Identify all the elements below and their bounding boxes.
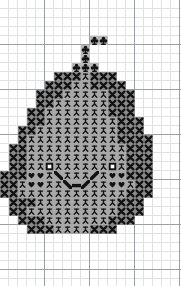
stitch-cell-figure [72,144,81,153]
stitch-cell-figure [81,81,90,90]
stitch-cell-cross [108,72,117,81]
stitch-cell-figure [63,198,72,207]
stitch-cell-cross [27,198,36,207]
stitch-cell-cross [117,108,126,117]
stitch-cell-figure [63,117,72,126]
stitch-cell-figure [90,198,99,207]
stitch-cell-layer [0,0,181,286]
stitch-cell-cross [117,207,126,216]
stitch-cell-figure [45,108,54,117]
stitch-cell-club [81,63,90,72]
stitch-cell-figure [54,108,63,117]
stitch-cell-cross [108,108,117,117]
stitch-cell-figure [99,90,108,99]
stitch-cell-cross [63,72,72,81]
stitch-cell-figure [63,171,72,180]
stitch-cell-figure [63,126,72,135]
stitch-cell-cross [126,153,135,162]
stitch-cell-figure [108,126,117,135]
stitch-cell-figure [81,189,90,198]
stitch-cell-figure [81,135,90,144]
stitch-cell-figure [108,117,117,126]
stitch-cell-cross [144,144,153,153]
stitch-cell-figure [117,189,126,198]
stitch-cell-cross [135,153,144,162]
stitch-cell-heart [117,171,126,180]
stitch-cell-heart [108,180,117,189]
stitch-cell-figure [27,207,36,216]
stitch-cell-figure [27,189,36,198]
stitch-cell-figure [72,117,81,126]
stitch-cell-cross [45,99,54,108]
stitch-cell-figure [81,171,90,180]
stitch-cell-cross [27,126,36,135]
stitch-cell-mouth [81,180,90,189]
stitch-cell-eye [108,162,117,171]
stitch-cell-figure [81,90,90,99]
stitch-cell-figure [90,90,99,99]
stitch-cell-figure [45,189,54,198]
stitch-cell-heart [27,180,36,189]
stitch-cell-cross [18,207,27,216]
stitch-cell-figure [54,189,63,198]
stitch-cell-figure [126,180,135,189]
stitch-cell-figure [108,189,117,198]
stitch-cell-figure [90,144,99,153]
stitch-cell-figure [63,144,72,153]
stitch-cell-figure [45,216,54,225]
stitch-cell-figure [54,207,63,216]
stitch-cell-figure [81,144,90,153]
stitch-cell-cross [117,126,126,135]
stitch-cell-figure [18,189,27,198]
stitch-cell-figure [54,117,63,126]
stitch-cell-figure [36,126,45,135]
stitch-cell-cross [54,72,63,81]
stitch-cell-cross [108,81,117,90]
stitch-cell-figure [63,216,72,225]
stitch-cell-club [81,54,90,63]
stitch-cell-cross [18,162,27,171]
stitch-cell-figure [117,153,126,162]
stitch-cell-figure [45,180,54,189]
stitch-cell-figure [81,126,90,135]
stitch-cell-figure [36,153,45,162]
stitch-cell-mouth [54,171,63,180]
stitch-cell-figure [99,135,108,144]
stitch-cell-cross [126,198,135,207]
stitch-cell-club [72,63,81,72]
stitch-cell-cross [27,108,36,117]
stitch-cell-figure [117,144,126,153]
stitch-cell-figure [36,189,45,198]
stitch-cell-figure [90,117,99,126]
stitch-cell-figure [72,99,81,108]
stitch-cell-cross [117,90,126,99]
stitch-cell-cross [27,117,36,126]
stitch-cell-figure [99,108,108,117]
stitch-cell-cross [117,117,126,126]
stitch-cell-cross [18,126,27,135]
stitch-cell-figure [27,144,36,153]
stitch-cell-figure [90,126,99,135]
stitch-cell-figure [27,162,36,171]
stitch-cell-figure [117,162,126,171]
stitch-cell-figure [63,207,72,216]
stitch-cell-cross [0,180,9,189]
stitch-cell-cross [135,180,144,189]
stitch-cell-figure [63,99,72,108]
stitch-cell-cross [9,207,18,216]
stitch-cell-cross [117,135,126,144]
stitch-cell-figure [45,171,54,180]
stitch-cell-cross [54,90,63,99]
stitch-cell-cross [135,126,144,135]
stitch-cell-figure [54,198,63,207]
stitch-cell-figure [54,153,63,162]
stitch-cell-figure [90,162,99,171]
stitch-cell-figure [90,207,99,216]
stitch-cell-figure [108,144,117,153]
stitch-cell-cross [99,72,108,81]
stitch-cell-cross [135,162,144,171]
stitch-cell-club [90,63,99,72]
stitch-cell-cross [126,171,135,180]
stitch-cell-figure [72,198,81,207]
stitch-cell-figure [99,99,108,108]
